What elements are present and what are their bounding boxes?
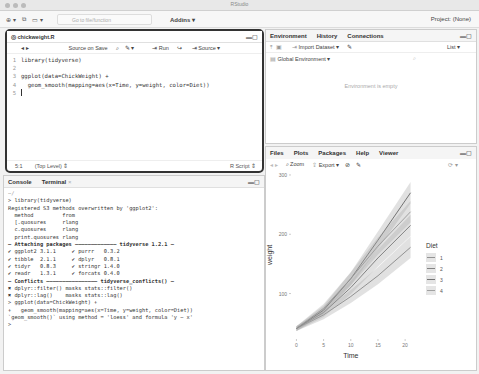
legend-title: Diet bbox=[426, 242, 438, 249]
editor-tab-label: chickweight.R bbox=[18, 34, 55, 40]
back-icon[interactable]: ◂ ▸ bbox=[21, 45, 29, 51]
scope-selector[interactable]: (Top Level) ⇕ bbox=[35, 163, 69, 169]
folder-icon: ▭ bbox=[32, 16, 38, 23]
addins-label: Addins bbox=[170, 17, 190, 23]
run-button[interactable]: ⇥ Run bbox=[152, 45, 169, 51]
list-label: List bbox=[447, 44, 456, 50]
file-type-selector[interactable]: R Script ⇕ bbox=[230, 163, 256, 169]
line-number: 4 bbox=[7, 81, 21, 89]
console-line: > library(tidyverse) bbox=[8, 197, 260, 204]
addins-menu[interactable]: Addins ▾ bbox=[170, 16, 195, 23]
cursor-position: 5:1 bbox=[15, 163, 23, 169]
zoom-button[interactable]: ⌕ Zoom bbox=[286, 161, 305, 168]
tab-help[interactable]: Help bbox=[356, 150, 369, 156]
x-tick-label: 0 bbox=[295, 342, 298, 348]
editor-tab[interactable]: ◎ chickweight.R bbox=[11, 34, 55, 40]
env-icon: ▤ bbox=[270, 56, 276, 62]
clear-env-icon[interactable]: ✎ bbox=[347, 44, 352, 50]
import-icon: ⇥ bbox=[292, 44, 297, 50]
code-line: 3ggplot(data=ChickWeight) + bbox=[7, 72, 262, 80]
source-on-save-checkbox[interactable]: Source on Save bbox=[69, 45, 108, 51]
import-dataset-button[interactable]: ⇥ Import Dataset ▾ bbox=[292, 44, 339, 50]
tab-viewer[interactable]: Viewer bbox=[379, 150, 398, 156]
open-file-button[interactable]: ▭ ▾ bbox=[32, 16, 43, 23]
y-tick-label: 100 bbox=[279, 291, 288, 297]
scope-label: Global Environment bbox=[278, 56, 326, 62]
x-axis-label: Time bbox=[343, 352, 358, 359]
project-menu[interactable]: Project: (None) bbox=[431, 16, 471, 22]
goto-file-input[interactable]: Go to file/function bbox=[57, 14, 152, 25]
open-project-button[interactable]: ⧉ bbox=[22, 16, 26, 23]
code-line: 2 bbox=[7, 64, 262, 72]
y-axis-label: weight bbox=[266, 245, 274, 266]
save-workspace-icon[interactable]: ▣ bbox=[276, 44, 282, 50]
export-button[interactable]: ⇪ Export ▾ bbox=[312, 162, 339, 168]
list-view-button[interactable]: List ▾ bbox=[447, 44, 460, 50]
environment-pane: Environment History Connections ▬▢ ⤒ ▣ ⇥… bbox=[265, 29, 477, 144]
scope-label: (Top Level) bbox=[35, 163, 62, 169]
code-line: 5 bbox=[7, 89, 262, 97]
line-number: 2 bbox=[7, 64, 21, 72]
load-workspace-icon[interactable]: ⤒ bbox=[270, 44, 272, 51]
console-line: c.quosures rlang bbox=[8, 226, 260, 233]
console-line: method from bbox=[8, 212, 260, 219]
code-line: 1library(tidyverse) bbox=[7, 56, 262, 64]
clear-plots-icon[interactable]: ✎ bbox=[356, 162, 361, 168]
line-number: 1 bbox=[7, 56, 21, 64]
legend-label: 3 bbox=[440, 277, 443, 283]
console-line: ✔ tibble 2.1.1 ✔ dplyr 0.8.1 bbox=[8, 256, 260, 263]
code-line: 4 geom_smooth(mapping=aes(x=Time, y=weig… bbox=[7, 81, 262, 89]
plot-nav-icon[interactable]: ◂ ▸ bbox=[270, 162, 278, 168]
console-line: ✔ readr 1.3.1 ✔ forcats 0.4.0 bbox=[8, 270, 260, 277]
console-output[interactable]: ~/> library(tidyverse)Registered S3 meth… bbox=[4, 188, 264, 331]
rerun-icon[interactable]: ↪ bbox=[177, 45, 182, 51]
console-path: ~/ bbox=[8, 190, 260, 197]
text-cursor bbox=[21, 89, 22, 96]
console-pane: Console Terminal × ▬▢ ~/> library(tidyve… bbox=[3, 175, 265, 371]
console-line: ✔ ggplot2 3.1.1 ✔ purrr 0.3.2 bbox=[8, 248, 260, 255]
console-line: — Conflicts ———————————————— tidyverse_c… bbox=[8, 278, 260, 285]
x-tick-label: 20 bbox=[402, 342, 408, 348]
ggplot-chart: 10020030005101520TimeweightDiet1234 bbox=[266, 170, 476, 370]
x-tick-label: 15 bbox=[375, 342, 381, 348]
tab-packages[interactable]: Packages bbox=[318, 150, 346, 156]
window-titlebar: RStudio bbox=[0, 0, 479, 11]
wand-icon[interactable]: ✎ ▾ bbox=[125, 45, 135, 51]
tab-console[interactable]: Console bbox=[8, 179, 32, 185]
legend-label: 2 bbox=[440, 266, 443, 272]
console-line: [.quosures rlang bbox=[8, 219, 260, 226]
global-env-selector[interactable]: ▤ Global Environment ▾ bbox=[270, 56, 330, 62]
x-tick-label: 5 bbox=[322, 342, 325, 348]
project-icon: ⧉ bbox=[22, 16, 26, 23]
source-button[interactable]: ⇥ Source ▾ bbox=[192, 45, 221, 51]
file-type-label: R Script bbox=[230, 163, 250, 169]
env-search-icon[interactable]: ⌕ bbox=[413, 55, 416, 62]
zoom-label: Zoom bbox=[290, 161, 304, 167]
y-tick-label: 200 bbox=[279, 231, 288, 237]
legend-label: 1 bbox=[440, 255, 443, 261]
pane-minmax-icon[interactable]: ▬▢ bbox=[460, 149, 472, 156]
pane-minmax-icon[interactable]: ▬▢ bbox=[460, 32, 472, 39]
pane-minmax-icon[interactable]: ▬▢ bbox=[246, 33, 258, 40]
main-toolbar: ⊕ ▾ ⧉ ▭ ▾ Go to file/function Addins ▾ P… bbox=[0, 11, 479, 28]
line-number: 5 bbox=[7, 89, 21, 97]
new-file-button[interactable]: ⊕ ▾ bbox=[6, 16, 16, 23]
pane-minmax-icon[interactable]: ▬▢ bbox=[248, 178, 260, 185]
code-area[interactable]: 1library(tidyverse) 2 3ggplot(data=Chick… bbox=[7, 54, 262, 97]
code-text: geom_smooth(mapping=aes(x=Time, y=weight… bbox=[21, 81, 210, 89]
refresh-plot-icon[interactable]: ⟳ ▾ bbox=[448, 162, 458, 168]
code-text: ggplot(data=ChickWeight) + bbox=[21, 72, 109, 80]
search-icon[interactable]: ⌕ bbox=[116, 45, 119, 52]
export-icon: ⇪ bbox=[312, 162, 317, 168]
tab-history[interactable]: History bbox=[317, 33, 338, 39]
tab-files[interactable]: Files bbox=[270, 150, 284, 156]
remove-plot-icon[interactable]: ⊘ bbox=[345, 162, 350, 168]
tab-environment[interactable]: Environment bbox=[270, 33, 307, 39]
terminal-label: Terminal bbox=[42, 179, 67, 185]
console-line: `geom_smooth()` using method = 'loess' a… bbox=[8, 314, 260, 321]
tab-connections[interactable]: Connections bbox=[347, 33, 383, 39]
console-prompt[interactable]: > bbox=[8, 321, 260, 328]
console-line: ✖ dplyr::filter() masks stats::filter() bbox=[8, 285, 260, 292]
tab-plots[interactable]: Plots bbox=[294, 150, 309, 156]
tab-terminal[interactable]: Terminal × bbox=[42, 179, 72, 185]
